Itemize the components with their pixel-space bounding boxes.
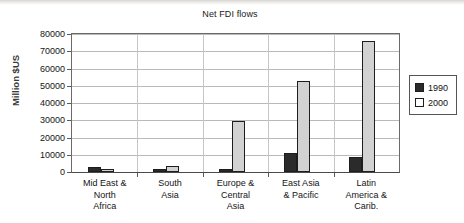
bar-2000-0 xyxy=(101,169,114,172)
bar-1990-1 xyxy=(153,169,166,172)
legend-label-1990: 1990 xyxy=(428,83,448,93)
legend-swatch-1990-icon xyxy=(415,83,424,92)
category-separator xyxy=(268,34,269,172)
bar-1990-2 xyxy=(219,169,232,172)
y-tick-label: 70000 xyxy=(0,46,71,56)
legend-label-2000: 2000 xyxy=(428,98,448,108)
x-tick-mark xyxy=(268,173,269,177)
chart-legend: 1990 2000 xyxy=(409,75,457,115)
category-label-line: Africa xyxy=(66,201,143,213)
legend-swatch-2000-icon xyxy=(415,98,424,107)
y-tick-label: 40000 xyxy=(0,98,71,108)
bar-2000-3 xyxy=(297,81,310,172)
y-tick-label: 30000 xyxy=(0,115,71,125)
category-separator xyxy=(137,34,138,172)
bar-1990-0 xyxy=(88,167,101,172)
category-separator xyxy=(203,34,204,172)
y-tick-label: 20000 xyxy=(0,133,71,143)
gridline xyxy=(72,69,399,70)
category-separator xyxy=(334,34,335,172)
bar-2000-4 xyxy=(362,41,375,172)
gridline xyxy=(72,34,399,35)
category-label-line: Latin xyxy=(328,178,405,190)
x-tick-mark xyxy=(334,173,335,177)
y-tick-label: 60000 xyxy=(0,64,71,74)
x-tick-mark xyxy=(203,173,204,177)
gridline xyxy=(72,51,399,52)
gridline xyxy=(72,86,399,87)
category-label-line: America & xyxy=(328,190,405,202)
bar-2000-1 xyxy=(166,166,179,172)
y-tick-label: 0 xyxy=(0,167,71,177)
bar-1990-4 xyxy=(349,157,362,172)
y-tick-label: 50000 xyxy=(0,81,71,91)
legend-item-2000: 2000 xyxy=(415,95,452,110)
net-fdi-flows-bar-chart: Net FDI flows Million $US 01000020000300… xyxy=(0,0,464,223)
bar-1990-3 xyxy=(284,153,297,172)
y-tick-label: 10000 xyxy=(0,150,71,160)
category-label: LatinAmerica &Carib. xyxy=(328,178,405,213)
plot-area xyxy=(71,33,400,173)
legend-item-1990: 1990 xyxy=(415,80,452,95)
gridline xyxy=(72,103,399,104)
category-label-line: Asia xyxy=(197,201,274,213)
x-tick-mark xyxy=(137,173,138,177)
category-label-line: Carib. xyxy=(328,201,405,213)
y-tick-label: 80000 xyxy=(0,29,71,39)
bar-2000-2 xyxy=(232,121,245,172)
